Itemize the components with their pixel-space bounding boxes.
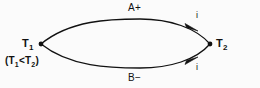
junction-node-left bbox=[39, 42, 44, 47]
branch-lower-label: B− bbox=[128, 73, 141, 83]
junction-label-right-symbol: T bbox=[216, 37, 223, 49]
junction-label-right: T2 bbox=[216, 38, 228, 52]
figure-root: T1 T2 A+ B− i i (T1<T2) bbox=[0, 0, 260, 88]
temperature-relation-label: (T1<T2) bbox=[5, 56, 39, 68]
branch-lower-arc bbox=[41, 44, 210, 68]
current-label-top: i bbox=[196, 11, 198, 20]
junction-node-right bbox=[208, 42, 213, 47]
relation-close-paren: ) bbox=[35, 55, 39, 66]
junction-label-left-subscript: 1 bbox=[29, 43, 34, 52]
branch-upper-label: A+ bbox=[128, 3, 141, 13]
junction-label-right-subscript: 2 bbox=[223, 43, 228, 52]
branch-upper-arc bbox=[41, 19, 210, 44]
junction-label-left-symbol: T bbox=[22, 37, 29, 49]
junction-label-left: T1 bbox=[22, 38, 34, 52]
current-label-bottom: i bbox=[196, 63, 198, 72]
